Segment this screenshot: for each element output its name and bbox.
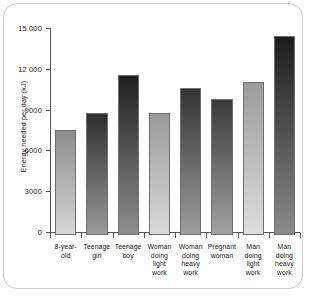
x-axis-category-label: Woman doing heavy work (175, 243, 206, 277)
bar (149, 113, 170, 235)
y-axis-tick-label: 0 (3, 228, 42, 237)
y-axis-tick-label: 9000 (3, 106, 42, 115)
y-axis-tick-label: 15 000 (3, 24, 42, 33)
x-axis-category-label: 8-year- old (50, 243, 81, 260)
bar (118, 75, 139, 235)
y-axis-tick-label: 6000 (3, 146, 42, 155)
y-axis-line (50, 28, 51, 232)
y-axis-tick (46, 110, 51, 111)
y-axis-tick-label: 12 000 (3, 65, 42, 74)
x-axis-category-label: Teenage boy (113, 243, 144, 260)
bar-chart: Energy needed per day (kJ) 0300060009000… (4, 4, 303, 289)
x-axis-category-label: Man doing light work (238, 243, 269, 277)
x-axis-tick (144, 233, 145, 238)
x-axis-tick (269, 233, 270, 238)
x-axis-category-label: Man doing heavy work (269, 243, 300, 277)
bar (86, 113, 107, 235)
y-axis-tick-label: 3000 (3, 187, 42, 196)
y-axis-tick (46, 28, 51, 29)
bar (180, 88, 201, 235)
y-axis-tick (46, 150, 51, 151)
x-axis-tick (238, 233, 239, 238)
x-axis-tick (50, 233, 51, 238)
y-axis-tick (46, 191, 51, 192)
x-axis-category-label: Pregnant woman (206, 243, 237, 260)
chart-frame: Energy needed per day (kJ) 0300060009000… (3, 3, 303, 289)
x-axis-tick (206, 233, 207, 238)
x-axis-category-label: Teenage girl (81, 243, 112, 260)
x-axis-category-label: Woman doing light work (144, 243, 175, 277)
bar (274, 36, 295, 235)
bar (211, 99, 232, 235)
x-axis-tick (81, 233, 82, 238)
x-axis-tick (175, 233, 176, 238)
bar (55, 130, 76, 235)
bar (243, 82, 264, 235)
y-axis-tick (46, 69, 51, 70)
x-axis-tick (113, 233, 114, 238)
x-axis-tick (300, 233, 301, 238)
